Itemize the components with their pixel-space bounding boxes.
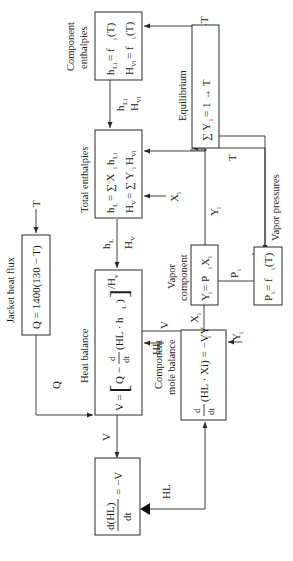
svg-text:(HL · h: (HL · h <box>113 317 126 350</box>
block-jacket-heat-flux: Jacket heat flux Q = 1400(130 − T) <box>5 235 50 335</box>
svg-text:i: i <box>111 167 119 169</box>
svg-text:enthalpies: enthalpies <box>78 26 89 69</box>
svg-text:Y: Y <box>199 293 211 301</box>
svg-text:V: V <box>158 321 170 329</box>
svg-text:X: X <box>168 194 180 202</box>
svg-text:V =: V = <box>113 394 125 411</box>
svg-text:i: i <box>215 207 223 209</box>
signal-label-Q: Q <box>50 381 62 389</box>
svg-text:H: H <box>123 67 135 75</box>
svg-text:i: i <box>237 332 245 334</box>
svg-text:H: H <box>128 103 140 111</box>
svg-text:i: i <box>205 336 213 338</box>
svg-text:i: i <box>130 167 138 169</box>
svg-text:Vi: Vi <box>130 150 138 157</box>
svg-text:i: i <box>111 38 119 40</box>
svg-text:h: h <box>100 243 112 249</box>
svg-text:h: h <box>104 159 116 165</box>
svg-text:H: H <box>123 205 135 213</box>
svg-text:P: P <box>228 272 240 278</box>
block-equilibrium: Equilibrium ∑ Y i = 1 → T <box>177 25 219 148</box>
block-total-mass-balance: d(HL) dt = −V <box>95 458 140 535</box>
vapor-pressures-title: Vapor pressures <box>270 174 281 241</box>
svg-text:T: T <box>226 154 238 161</box>
svg-text:Y: Y <box>230 333 242 341</box>
svg-text:h: h <box>104 69 116 75</box>
branch-point-icon <box>140 503 150 515</box>
svg-text:i: i <box>195 313 203 315</box>
block-title: Vapor <box>166 263 177 289</box>
svg-text:= ∑ Y: = ∑ Y <box>123 172 136 199</box>
svg-text:Q −: Q − <box>113 367 125 384</box>
svg-text:V: V <box>130 200 138 205</box>
svg-text:T: T <box>198 16 210 23</box>
signal-arrow-T-vapor-pressures <box>219 136 265 251</box>
block-title: Component <box>153 340 164 389</box>
svg-text:i: i <box>206 256 214 258</box>
svg-text:L: L <box>111 203 119 207</box>
svg-text:h: h <box>104 207 116 213</box>
block-component-mole-balance: Component mole balance d dt (HL · Xi) = … <box>153 326 226 420</box>
svg-text:dt: dt <box>121 356 131 364</box>
svg-text:component: component <box>178 254 189 301</box>
svg-text:]: ] <box>104 289 133 298</box>
block-title: Component <box>65 22 76 71</box>
svg-text:(T): (T) <box>123 22 136 36</box>
signal-label-T: T <box>30 200 42 207</box>
svg-text:= ∑ X: = ∑ X <box>104 173 117 201</box>
svg-text:d(HL): d(HL) <box>104 502 117 530</box>
svg-text:dt: dt <box>121 512 133 521</box>
block-total-enthalpies: Total enthalpies h L = ∑ X i h Li H V = … <box>79 130 142 218</box>
svg-text:Vi: Vi <box>130 60 138 67</box>
svg-text:V: V <box>129 236 137 241</box>
block-component-enthalpies: Component enthalpies h Li = f i (T) H Vi… <box>65 12 142 80</box>
svg-text:i: i <box>207 119 215 121</box>
svg-text:i: i <box>206 292 214 294</box>
block-title: Jacket heat flux <box>5 256 16 323</box>
svg-text:= 1 → T: = 1 → T <box>200 79 212 117</box>
block-heat-balance: Heat balance V = [ Q − d dt (HL · h L ) … <box>79 270 142 415</box>
block-vapor-pressures: P i = f i (T) <box>254 247 282 305</box>
signal-label-HL-out: HL <box>160 484 172 499</box>
jacket-equation: Q = 1400(130 − T) <box>30 245 43 329</box>
svg-text:= f: = f <box>123 46 135 59</box>
svg-text:i: i <box>269 268 277 270</box>
signal-arrow-HL-out <box>150 422 205 509</box>
svg-text:= −V: = −V <box>112 472 124 495</box>
block-title: Heat balance <box>79 328 90 383</box>
svg-text:= f: = f <box>262 278 274 291</box>
svg-text:Vi: Vi <box>135 96 143 103</box>
svg-text:L: L <box>120 305 128 309</box>
svg-text:= f: = f <box>104 48 116 61</box>
svg-text:X: X <box>199 258 211 266</box>
svg-text:dt: dt <box>206 408 216 416</box>
svg-text:L: L <box>107 239 115 243</box>
svg-text:d: d <box>107 356 117 361</box>
svg-text:v: v <box>112 274 120 278</box>
svg-text:Y: Y <box>208 208 220 216</box>
block-title: Equilibrium <box>177 70 188 121</box>
svg-text:Li: Li <box>111 63 119 69</box>
svg-text:/H: /H <box>105 278 117 289</box>
svg-text:d: d <box>192 408 202 413</box>
svg-text:P: P <box>262 295 274 301</box>
block-title: Total enthalpies <box>79 146 90 213</box>
svg-text:X: X <box>188 315 200 323</box>
svg-text:[: [ <box>104 384 133 393</box>
svg-text:h: h <box>114 105 126 111</box>
svg-text:= P: = P <box>199 276 211 291</box>
svg-text:∑ Y: ∑ Y <box>200 123 213 141</box>
svg-text:): ) <box>113 299 126 303</box>
svg-text:H: H <box>122 241 134 249</box>
svg-text:(T): (T) <box>262 253 275 267</box>
svg-text:V: V <box>100 433 112 441</box>
svg-text:i: i <box>235 269 243 271</box>
svg-text:mole balance: mole balance <box>166 339 177 395</box>
svg-text:i: i <box>206 267 214 269</box>
svg-text:i: i <box>130 37 138 39</box>
svg-text:H: H <box>123 157 135 165</box>
svg-text:(T): (T) <box>104 23 117 37</box>
diagram-canvas: Jacket heat flux Q = 1400(130 − T) T Q H… <box>0 0 293 561</box>
svg-text:i: i <box>269 292 277 294</box>
svg-text:Li: Li <box>111 153 119 159</box>
